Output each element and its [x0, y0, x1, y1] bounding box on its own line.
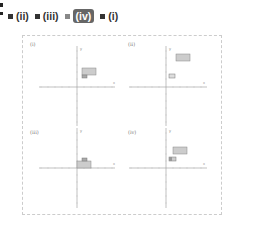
graph-ii: (ii) y x [123, 38, 221, 126]
square-bullet-icon [65, 14, 70, 19]
answer-options: (ii) (iii) (iv) (i) [8, 8, 118, 24]
square-bullet-icon [100, 14, 105, 19]
svg-text:y: y [80, 46, 82, 51]
coordinate-plane: y x [25, 126, 123, 214]
svg-text:y: y [169, 46, 171, 51]
option-i[interactable]: (i) [100, 10, 118, 22]
edge-mark [0, 12, 3, 15]
graph-iv: (iv) y x [123, 126, 221, 214]
coordinate-plane: y x [123, 126, 221, 214]
graph-i: (i) y x [25, 38, 123, 126]
option-ii[interactable]: (ii) [8, 10, 29, 22]
svg-text:y: y [80, 128, 82, 133]
svg-text:x: x [203, 161, 205, 166]
svg-text:x: x [113, 161, 115, 166]
edge-mark [0, 3, 3, 7]
svg-text:x: x [203, 80, 205, 85]
option-iii[interactable]: (iii) [35, 10, 59, 22]
svg-text:y: y [169, 128, 171, 133]
option-iv[interactable]: (iv) [65, 9, 95, 23]
square-bullet-icon [8, 14, 13, 19]
graphs-panel: (i) y x (ii) [22, 35, 222, 215]
coordinate-plane: y x [123, 38, 221, 126]
coordinate-plane: y x [25, 38, 123, 126]
graph-iii: (iii) y x [25, 126, 123, 214]
square-bullet-icon [35, 14, 40, 19]
svg-text:x: x [113, 80, 115, 85]
